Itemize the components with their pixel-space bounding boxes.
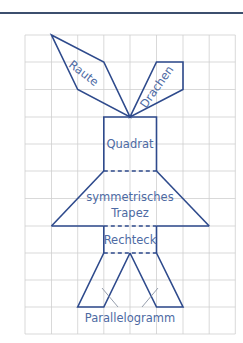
quadrat-label: Quadrat xyxy=(107,137,154,151)
shapes-figure: Raute Drachen Quadrat symmetrisches Trap… xyxy=(0,0,243,343)
trapez-label-line1: symmetrisches xyxy=(86,190,173,204)
trapez-label-line2: Trapez xyxy=(110,206,149,220)
grid xyxy=(25,35,235,334)
rechteck-label: Rechteck xyxy=(104,233,157,247)
parallelogramm-label: Parallelogramm xyxy=(85,311,175,325)
